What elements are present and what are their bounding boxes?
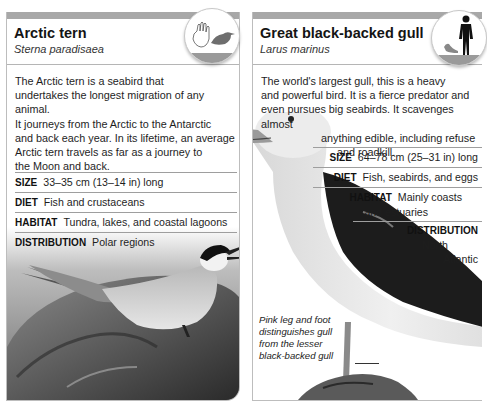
arctic-tern-on-rock-photo [7, 227, 239, 400]
hand-and-bird-scale-icon [184, 8, 240, 64]
fact-value: Tundra, lakes, and coastal lagoons [63, 216, 227, 228]
species-title: Arctic tern [14, 25, 87, 41]
caption-line: black-backed gull [259, 350, 359, 362]
human-and-bird-scale-icon [431, 10, 487, 66]
arctic-tern-card: Arctic tern Sterna paradisaea [6, 12, 240, 401]
fact-size: SIZE33–35 cm (13–14 in) long [15, 172, 237, 192]
fact-label: DIET [334, 172, 357, 183]
description-line: and powerful bird. It is a fierce predat… [261, 88, 482, 102]
fact-value: Polar regions [92, 236, 154, 248]
fact-value: North [353, 238, 478, 252]
badge-art [432, 11, 486, 65]
leg-caption: Pink leg and foot distinguishes gull fro… [259, 314, 359, 362]
badge-art [185, 9, 239, 63]
fact-label: HABITAT [349, 192, 391, 203]
fact-label: SIZE [330, 152, 352, 163]
fact-distribution: DISTRIBUTIONPolar regions [15, 232, 237, 252]
fact-label: DIET [15, 197, 38, 208]
latin-name: Sterna paradisaea [14, 43, 104, 55]
description: The Arctic tern is a seabird that undert… [15, 74, 237, 173]
latin-name: Larus marinus [260, 43, 330, 55]
fact-value: Fish and crustaceans [44, 196, 145, 208]
fact-value-cont: Atlantic [353, 252, 478, 266]
fact-value: Mainly coasts [398, 191, 462, 203]
fact-size: SIZE64–78 cm (25–31 in) long [313, 147, 482, 167]
description-line: even pursues big seabirds. It scavenges … [261, 102, 482, 130]
caption-line: from the lesser [259, 338, 359, 350]
fact-diet: DIETFish, seabirds, and eggs [313, 167, 482, 187]
fact-diet: DIETFish and crustaceans [15, 192, 237, 212]
description-line: and back each year. In its lifetime, an … [15, 131, 237, 145]
caption-line: distinguishes gull [259, 326, 359, 338]
caption-line: Pink leg and foot [259, 314, 359, 326]
fact-label: DISTRIBUTION [353, 224, 478, 238]
caption-leader-line [355, 363, 379, 364]
fact-value-cont: and estuaries [313, 205, 462, 219]
fact-value: 64–78 cm (25–31 in) long [358, 151, 478, 163]
description-line: The Arctic tern is a seabird that [15, 74, 237, 88]
species-title: Great black-backed gull [260, 25, 424, 41]
description-line: It journeys from the Arctic to the Antar… [15, 117, 237, 131]
fact-value: Fish, seabirds, and eggs [363, 171, 478, 183]
fact-distribution: DISTRIBUTION North Atlantic [353, 221, 482, 268]
fact-habitat: HABITATMainly coasts and estuaries [313, 187, 482, 221]
facts-table: SIZE64–78 cm (25–31 in) long DIETFish, s… [313, 147, 482, 268]
facts-table: SIZE33–35 cm (13–14 in) long DIETFish an… [15, 172, 237, 252]
fact-label: HABITAT [15, 217, 57, 228]
fact-value: 33–35 cm (13–14 in) long [43, 176, 163, 188]
description-line: The world's largest gull, this is a heav… [261, 74, 482, 88]
fact-label: DISTRIBUTION [15, 237, 86, 248]
description-line: Arctic tern travels as far as a journey … [15, 145, 237, 159]
description-line: undertakes the longest migration of any … [15, 88, 237, 116]
great-black-backed-gull-card: Great black-backed gull Larus marinus T [252, 12, 482, 401]
description-line: anything edible, including refuse [261, 131, 482, 145]
fact-label: SIZE [15, 177, 37, 188]
fact-habitat: HABITATTundra, lakes, and coastal lagoon… [15, 212, 237, 232]
